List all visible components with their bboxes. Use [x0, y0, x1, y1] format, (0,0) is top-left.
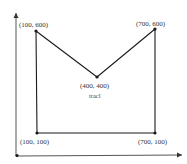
- x-axis: [16, 155, 182, 156]
- vertex-label: (400, 400): [80, 82, 110, 90]
- origin-point: [15, 154, 18, 157]
- shape-label: tracl: [89, 92, 101, 99]
- vertex-point: [34, 29, 37, 32]
- vertex-point: [153, 131, 156, 134]
- vertex-point: [35, 131, 38, 134]
- vertex-point: [95, 75, 98, 78]
- vertex-label: (100, 600): [19, 21, 49, 29]
- vertex-label: (700, 100): [138, 138, 168, 146]
- diagram-canvas: (100, 600) (400, 400) (700, 600) (700, 1…: [0, 0, 187, 164]
- shape-outline: [36, 29, 155, 133]
- vertex-label: (100, 100): [20, 138, 50, 146]
- vertex-label: (700, 600): [136, 20, 166, 28]
